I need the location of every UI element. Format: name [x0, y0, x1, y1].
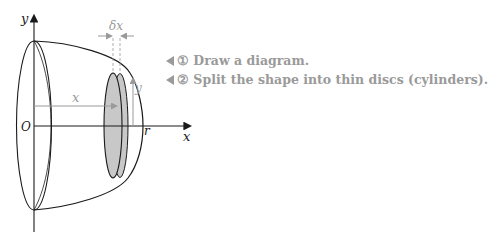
step-marker: ② — [177, 70, 189, 89]
height-label: y — [134, 81, 142, 95]
distance-label: x — [72, 90, 80, 105]
step-notes: ① Draw a diagram. ② Split the shape into… — [166, 51, 488, 89]
step-marker: ① — [177, 51, 189, 70]
step-text: Draw a diagram. — [193, 51, 309, 70]
x-axis-label: x — [183, 129, 191, 144]
step-note-2: ② Split the shape into thin discs (cylin… — [166, 70, 488, 89]
origin-label: O — [21, 120, 31, 134]
pointer-triangle-icon — [166, 56, 174, 66]
step-text: Split the shape into thin discs (cylinde… — [193, 70, 488, 89]
step-note-1: ① Draw a diagram. — [166, 51, 488, 70]
pointer-triangle-icon — [166, 75, 174, 85]
thickness-label: δx — [109, 19, 123, 33]
y-axis-label: y — [20, 11, 29, 26]
